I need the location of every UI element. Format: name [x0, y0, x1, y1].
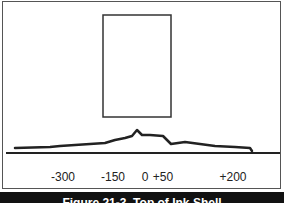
rectangle-shape	[103, 15, 171, 117]
axis-label-plus-200: +200	[219, 170, 246, 184]
profile-curve	[15, 130, 252, 151]
figure-caption: Figure 21-3. Top of Ink Shell	[0, 192, 284, 203]
figure-drawing	[0, 0, 284, 192]
axis-label-minus-300: -300	[51, 170, 75, 184]
axis-label-zero: 0	[142, 170, 149, 184]
axis-label-minus-150: -150	[101, 170, 125, 184]
caption-bar: Figure 21-3. Top of Ink Shell	[0, 192, 284, 203]
axis-label-plus-50: +50	[153, 170, 173, 184]
